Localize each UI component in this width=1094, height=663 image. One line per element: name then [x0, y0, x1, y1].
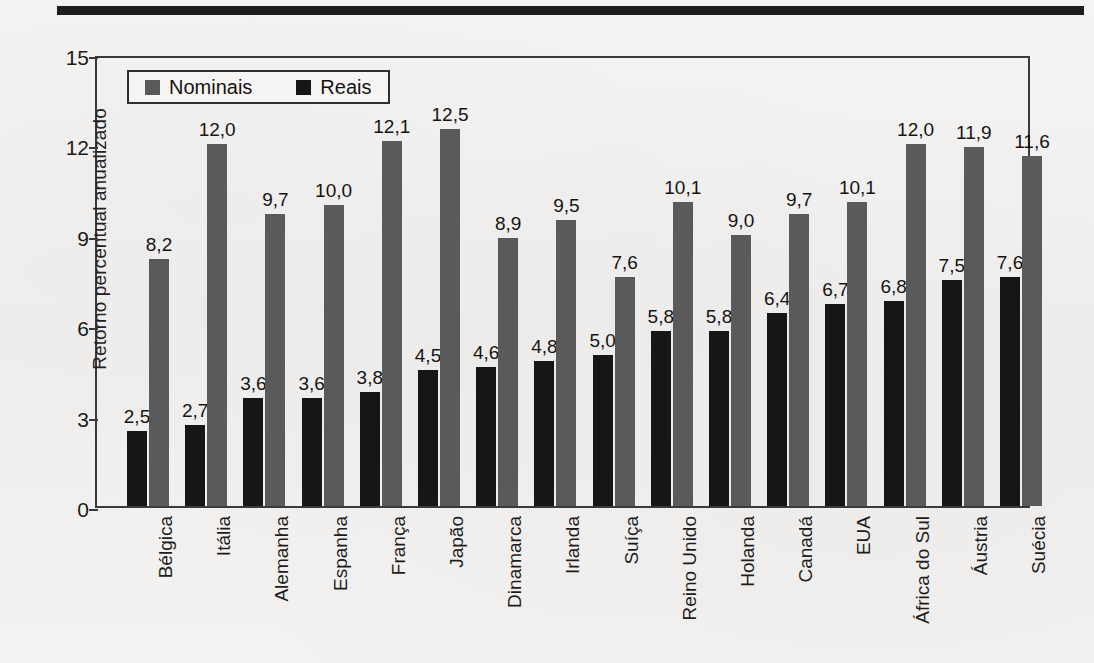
bar-value-label: 9,5: [536, 195, 596, 217]
bar-nominais[interactable]: 9,7: [265, 214, 285, 506]
bar-nominais[interactable]: 8,2: [149, 259, 169, 506]
bar-nominais[interactable]: 10,1: [673, 202, 693, 506]
bar-nominais[interactable]: 10,1: [847, 202, 867, 506]
bar-reais[interactable]: 3,6: [302, 398, 322, 506]
bar-reais[interactable]: 2,7: [185, 425, 205, 506]
x-axis-tick-label: Suíça: [621, 516, 643, 663]
bar-group: 6,49,7: [767, 54, 809, 506]
bar-reais[interactable]: 7,6: [1000, 277, 1020, 506]
bar-reais[interactable]: 5,8: [709, 331, 729, 506]
bar-reais[interactable]: 7,5: [942, 280, 962, 506]
bar-group: 2,712,0: [185, 54, 227, 506]
bar-nominais[interactable]: 12,1: [382, 141, 402, 506]
bar-value-label: 9,0: [711, 210, 771, 232]
bar-group: 7,611,6: [1000, 54, 1042, 506]
bar-group: 3,69,7: [243, 54, 285, 506]
bar-value-label: 9,7: [245, 189, 305, 211]
bar-value-label: 12,0: [187, 119, 247, 141]
bar-group: 5,89,0: [709, 54, 751, 506]
bar-group: 7,511,9: [942, 54, 984, 506]
bar-group: 5,810,1: [651, 54, 693, 506]
bar-value-label: 8,2: [129, 234, 189, 256]
x-axis-tick-label: Canadá: [795, 516, 817, 663]
y-axis-tick-label: 15: [49, 46, 89, 70]
bar-value-label: 7,6: [595, 252, 655, 274]
bar-nominais[interactable]: 11,6: [1022, 156, 1042, 506]
bar-value-label: 10,1: [653, 177, 713, 199]
bar-group: 4,512,5: [418, 54, 460, 506]
bar-nominais[interactable]: 10,0: [324, 205, 344, 506]
bar-nominais[interactable]: 9,0: [731, 235, 751, 506]
bar-reais[interactable]: 5,0: [593, 355, 613, 506]
x-axis-tick-label: Áustria: [970, 516, 992, 663]
bar-reais[interactable]: 3,6: [243, 398, 263, 506]
x-axis-tick-label: África do Sul: [912, 516, 934, 663]
x-axis-tick-label: Irlanda: [562, 516, 584, 663]
bar-group: 2,58,2: [127, 54, 169, 506]
bar-value-label: 12,5: [420, 104, 480, 126]
bar-group: 6,812,0: [884, 54, 926, 506]
y-axis-tick-label: 0: [49, 498, 89, 522]
x-axis-tick-label: França: [388, 516, 410, 663]
x-axis-tick-label: Japão: [446, 516, 468, 663]
bar-nominais[interactable]: 8,9: [498, 238, 518, 506]
bar-nominais[interactable]: 12,0: [207, 144, 227, 506]
bar-value-label: 10,0: [304, 180, 364, 202]
bar-reais[interactable]: 3,8: [360, 392, 380, 507]
y-axis-tick-label: 3: [49, 408, 89, 432]
bars-layer: 2,58,22,712,03,69,73,610,03,812,14,512,5…: [97, 58, 1028, 506]
bar-group: 6,710,1: [825, 54, 867, 506]
x-axis-tick-label: Bélgica: [155, 516, 177, 663]
bar-reais[interactable]: 6,4: [767, 313, 787, 506]
x-axis-tick-label: Reino Unido: [679, 516, 701, 663]
bar-nominais[interactable]: 12,5: [440, 129, 460, 506]
chart-plot-area: Retorno percentual anualizado 03691215 N…: [95, 56, 1030, 508]
bar-value-label: 12,0: [886, 119, 946, 141]
bar-value-label: 11,6: [1002, 131, 1062, 153]
y-axis-tick-label: 9: [49, 227, 89, 251]
x-axis-tick-label: Espanha: [330, 516, 352, 663]
bar-value-label: 8,9: [478, 213, 538, 235]
page-background: Retorno percentual anualizado 03691215 N…: [0, 0, 1094, 663]
bar-group: 3,812,1: [360, 54, 402, 506]
x-axis-tick-label: Itália: [213, 516, 235, 663]
bar-reais[interactable]: 6,8: [884, 301, 904, 506]
bar-nominais[interactable]: 9,5: [556, 220, 576, 506]
bar-nominais[interactable]: 11,9: [964, 147, 984, 506]
bar-reais[interactable]: 4,6: [476, 367, 496, 506]
bar-reais[interactable]: 2,5: [127, 431, 147, 506]
bar-group: 4,68,9: [476, 54, 518, 506]
x-axis-tick-label: Dinamarca: [504, 516, 526, 663]
bar-nominais[interactable]: 12,0: [906, 144, 926, 506]
bar-value-label: 10,1: [827, 177, 887, 199]
bar-group: 5,07,6: [593, 54, 635, 506]
x-axis-tick-label: Alemanha: [271, 516, 293, 663]
y-axis-tick-label: 6: [49, 317, 89, 341]
bar-reais[interactable]: 5,8: [651, 331, 671, 506]
bar-value-label: 11,9: [944, 122, 1004, 144]
x-axis-tick-label: Suécia: [1028, 516, 1050, 663]
y-axis-tick-label: 12: [49, 136, 89, 160]
bar-value-label: 9,7: [769, 189, 829, 211]
top-horizontal-rule: [57, 6, 1084, 15]
x-axis-tick-label: Holanda: [737, 516, 759, 663]
x-axis-labels: BélgicaItáliaAlemanhaEspanhaFrançaJapãoD…: [95, 508, 1030, 658]
bar-value-label: 12,1: [362, 116, 422, 138]
bar-group: 3,610,0: [302, 54, 344, 506]
bar-reais[interactable]: 4,8: [534, 361, 554, 506]
bar-group: 4,89,5: [534, 54, 576, 506]
bar-reais[interactable]: 4,5: [418, 370, 438, 506]
x-axis-tick-label: EUA: [853, 516, 875, 663]
bar-nominais[interactable]: 9,7: [789, 214, 809, 506]
bar-reais[interactable]: 6,7: [825, 304, 845, 506]
